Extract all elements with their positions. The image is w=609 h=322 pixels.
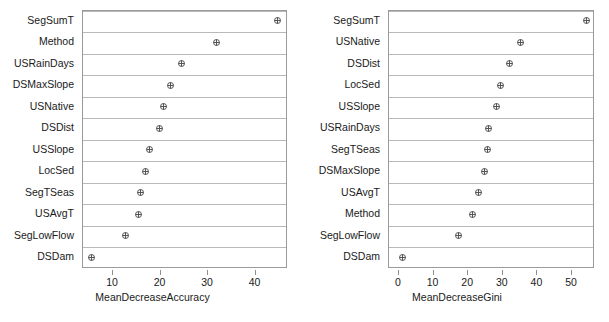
grid-line [83, 226, 286, 227]
data-point-marker [160, 103, 167, 110]
x-axis-tick [160, 270, 161, 275]
category-label: USAvgT [341, 187, 380, 198]
data-point-marker [137, 189, 144, 196]
category-label: SegLowFlow [14, 230, 74, 241]
x-axis-tick-label: 30 [187, 277, 227, 288]
x-axis-tick [467, 270, 468, 275]
category-label: USRainDays [14, 58, 74, 69]
x-axis-title-gini: MeanDecreaseGini [305, 291, 609, 303]
category-label: LocSed [344, 79, 380, 90]
category-label: USNative [336, 36, 380, 47]
data-point-marker [88, 254, 95, 261]
grid-line [389, 226, 593, 227]
data-point-marker [583, 17, 590, 24]
x-axis-tick [112, 270, 113, 275]
grid-line [389, 118, 593, 119]
data-point-marker [497, 82, 504, 89]
grid-line [389, 161, 593, 162]
grid-line [83, 161, 286, 162]
x-axis-tick [571, 270, 572, 275]
grid-line [389, 247, 593, 248]
x-axis-tick-label: 40 [235, 277, 275, 288]
grid-line [389, 11, 593, 12]
data-point-marker [481, 168, 488, 175]
grid-line [83, 140, 286, 141]
data-point-marker [475, 189, 482, 196]
data-point-marker [213, 39, 220, 46]
data-point-marker [517, 39, 524, 46]
grid-line [83, 97, 286, 98]
data-point-marker [506, 60, 513, 67]
panel-mean-decrease-gini: SegSumTUSNativeDSDistLocSedUSSlopeUSRain… [305, 0, 609, 322]
x-axis-tick [207, 270, 208, 275]
grid-line [83, 54, 286, 55]
category-label: DSDam [37, 251, 74, 262]
data-point-marker [156, 125, 163, 132]
grid-line [83, 32, 286, 33]
category-label: USSlope [33, 144, 74, 155]
category-label: USSlope [339, 101, 380, 112]
grid-line [83, 204, 286, 205]
grid-line [83, 75, 286, 76]
data-point-marker [469, 211, 476, 218]
x-axis-tick-label: 50 [551, 277, 591, 288]
x-axis-tick [536, 270, 537, 275]
data-point-marker [142, 168, 149, 175]
category-label: SegTSeas [331, 144, 380, 155]
category-label: USAvgT [35, 208, 74, 219]
data-point-marker [455, 232, 462, 239]
category-label: DSMaxSlope [319, 165, 380, 176]
data-point-marker [399, 254, 406, 261]
x-axis-tick-label: 10 [92, 277, 132, 288]
category-label: SegTSeas [25, 187, 74, 198]
grid-line [389, 140, 593, 141]
data-point-marker [178, 60, 185, 67]
category-label: LocSed [38, 165, 74, 176]
data-point-marker [485, 125, 492, 132]
grid-line [389, 183, 593, 184]
category-label: Method [39, 36, 74, 47]
category-label: DSDist [347, 58, 380, 69]
grid-line [83, 118, 286, 119]
x-axis-tick [502, 270, 503, 275]
data-point-marker [135, 211, 142, 218]
category-label: Method [345, 208, 380, 219]
x-axis-tick [433, 270, 434, 275]
grid-line [389, 54, 593, 55]
grid-line [389, 32, 593, 33]
grid-line [83, 247, 286, 248]
grid-line [389, 97, 593, 98]
category-label: SegSumT [27, 15, 74, 26]
x-axis-tick [398, 270, 399, 275]
data-point-marker [167, 82, 174, 89]
grid-line [83, 11, 286, 12]
category-label: DSDam [343, 251, 380, 262]
category-label: DSMaxSlope [13, 79, 74, 90]
grid-line [389, 204, 593, 205]
category-label: SegLowFlow [320, 230, 380, 241]
x-axis-tick [255, 270, 256, 275]
x-axis-tick-label: 20 [140, 277, 180, 288]
category-label: USRainDays [320, 122, 380, 133]
x-axis-title-accuracy: MeanDecreaseAccuracy [0, 291, 305, 303]
grid-line [83, 183, 286, 184]
data-point-marker [484, 146, 491, 153]
grid-line [389, 75, 593, 76]
data-point-marker [493, 103, 500, 110]
data-point-marker [274, 17, 281, 24]
category-label: DSDist [41, 122, 74, 133]
category-label: SegSumT [333, 15, 380, 26]
data-point-marker [146, 146, 153, 153]
panel-mean-decrease-accuracy: SegSumTMethodUSRainDaysDSMaxSlopeUSNativ… [0, 0, 305, 322]
data-point-marker [122, 232, 129, 239]
category-label: USNative [30, 101, 74, 112]
